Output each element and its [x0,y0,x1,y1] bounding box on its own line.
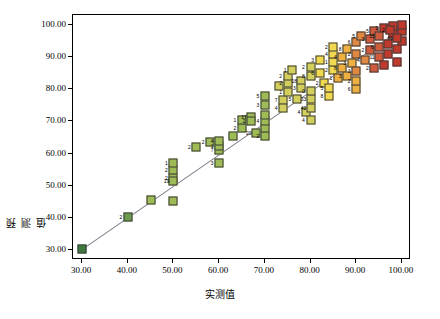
data-point-label: 3 [343,61,346,66]
plot-area: 2221192237142117220243574122151834442330… [72,14,410,259]
data-point-label: 2 [316,80,319,85]
x-tick-mark [310,259,311,263]
x-tick-label: 80.00 [299,265,319,275]
data-point [324,91,333,100]
data-point-label: 2 [302,64,305,69]
data-point [384,49,393,58]
data-point [324,83,333,92]
data-point-label: 1 [325,59,328,64]
data-point-label: 3 [293,85,296,90]
data-point-label: 2 [348,51,351,56]
data-point [260,91,269,100]
data-point [247,117,256,126]
data-point [393,44,402,53]
data-point-label: 33 [301,96,307,101]
data-point-label: 6 [371,45,374,50]
data-point-label: 4 [211,138,214,143]
data-point [393,33,402,42]
y-tick-label: 30.00 [28,244,66,254]
y-tick-mark [68,217,72,218]
data-point-label: 2 [256,133,259,138]
data-point [386,25,395,34]
data-point-label: 2 [279,80,282,85]
data-point-label: 2 [362,48,365,53]
data-point [169,197,178,206]
y-tick-mark [68,153,72,154]
data-point-label: 4 [334,54,337,59]
data-point-label: 5 [352,33,355,38]
x-tick-mark [172,259,173,263]
data-point-label: 7 [211,148,214,153]
data-point [169,177,178,186]
data-point-label: 1 [279,90,282,95]
y-tick-mark [68,88,72,89]
x-axis-label: 实测值 [0,286,440,301]
y-tick-label: 80.00 [28,83,66,93]
x-tick-mark [355,259,356,263]
data-point-label: 8 [320,93,323,98]
data-point-label: 42 [301,106,307,111]
y-tick-label: 50.00 [28,180,66,190]
data-point-label: 2 [325,45,328,50]
y-tick-label: 100.00 [28,19,66,29]
data-point-label: 1 [234,117,237,122]
data-point [123,212,132,221]
data-point-label: 1 [211,143,214,148]
data-point-label: 8 [339,46,342,51]
y-tick-mark [68,120,72,121]
x-tick-label: 100.00 [388,265,413,275]
data-point [215,159,224,168]
data-point-label: 4 [302,117,305,122]
data-point [352,85,361,94]
x-tick-label: 40.00 [117,265,137,275]
data-point [215,136,224,145]
data-point [279,104,288,113]
data-point-label: 1 [330,75,333,80]
x-tick-mark [218,259,219,263]
data-point [78,244,87,253]
data-point [288,65,297,74]
data-point [393,57,402,66]
x-tick-label: 60.00 [208,265,228,275]
data-point [379,60,388,69]
y-tick-mark [68,24,72,25]
data-point [192,143,201,152]
data-point [329,43,338,52]
data-point [260,131,269,140]
data-point-label: 3 [211,161,214,166]
data-point-label: 2 [279,74,282,79]
data-point [306,115,315,124]
data-point [260,101,269,110]
x-tick-label: 70.00 [254,265,274,275]
data-point-label: 2 [382,27,385,32]
data-point-label: 8 [334,66,337,71]
x-tick-mark [264,259,265,263]
data-point [306,104,315,113]
data-point [315,56,324,65]
data-point-label: 6 [348,40,351,45]
data-point-label: 2 [325,67,328,72]
data-point-label: 8 [302,74,305,79]
data-point-label: 4 [325,51,328,56]
data-point-label: 2 [119,214,122,219]
y-axis-label: 预测值 [4,218,64,228]
data-point-label: 2 [366,66,369,71]
y-tick-label: 60.00 [28,148,66,158]
data-point-label: 5 [320,85,323,90]
data-point-label: 11 [369,54,374,59]
data-point [375,43,384,52]
data-point [352,77,361,86]
y-tick-label: 70.00 [28,115,66,125]
data-point-label: 2 [188,145,191,150]
data-point [315,69,324,78]
data-point [370,64,379,73]
data-point-label: 3 [339,74,342,79]
data-point-label: 15 [369,33,375,38]
data-point-label: 4 [357,58,360,63]
x-tick-label: 50.00 [162,265,182,275]
x-tick-mark [127,259,128,263]
data-point-label: 1 [165,161,168,166]
data-point-label: 1 [375,25,378,30]
data-point-label: 2 [202,140,205,145]
data-point-label: 3 [348,69,351,74]
